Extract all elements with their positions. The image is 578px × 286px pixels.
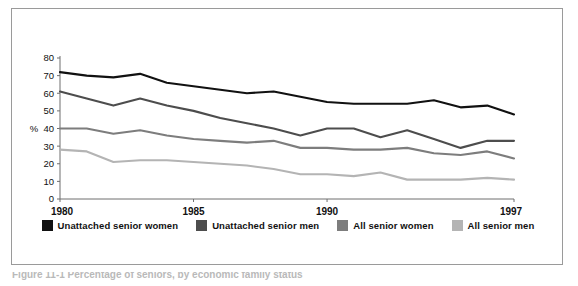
series-line-1 (60, 91, 514, 147)
legend-swatch-icon (196, 220, 207, 231)
legend-swatch-icon (337, 220, 348, 231)
y-tick-label: 0 (49, 193, 54, 204)
line-chart-svg: 010203040506070801980198519901997% (12, 9, 564, 220)
y-tick-label: 70 (43, 70, 54, 81)
legend-label: All senior women (353, 220, 433, 231)
chart-legend: Unattached senior womenUnattached senior… (12, 220, 564, 231)
series-line-0 (60, 72, 514, 114)
legend-label: Unattached senior women (58, 220, 179, 231)
legend-item[interactable]: All senior men (452, 220, 535, 231)
legend-label: All senior men (468, 220, 535, 231)
chart-figure-frame: 010203040506070801980198519901997% Unatt… (11, 8, 563, 265)
legend-item[interactable]: Unattached senior women (42, 220, 179, 231)
x-tick-label: 1990 (316, 206, 339, 217)
y-tick-label: 10 (43, 176, 54, 187)
x-tick-label: 1997 (500, 206, 523, 217)
legend-item[interactable]: Unattached senior men (196, 220, 319, 231)
y-tick-label: 40 (43, 123, 54, 134)
y-tick-label: 80 (43, 52, 54, 63)
y-tick-label: 60 (43, 88, 54, 99)
legend-label: Unattached senior men (212, 220, 319, 231)
legend-swatch-icon (452, 220, 463, 231)
y-tick-label: 50 (43, 105, 54, 116)
y-axis-title: % (30, 123, 39, 134)
y-tick-label: 30 (43, 141, 54, 152)
y-tick-label: 20 (43, 158, 54, 169)
x-tick-label: 1985 (182, 206, 205, 217)
x-tick-label: 1980 (51, 206, 74, 217)
figure-caption-strip: Figure 11-1 Percentage of seniors, by ec… (11, 272, 563, 286)
legend-item[interactable]: All senior women (337, 220, 433, 231)
figure-root: 010203040506070801980198519901997% Unatt… (0, 0, 578, 286)
legend-swatch-icon (42, 220, 53, 231)
figure-caption: Figure 11-1 Percentage of seniors, by ec… (12, 272, 303, 280)
